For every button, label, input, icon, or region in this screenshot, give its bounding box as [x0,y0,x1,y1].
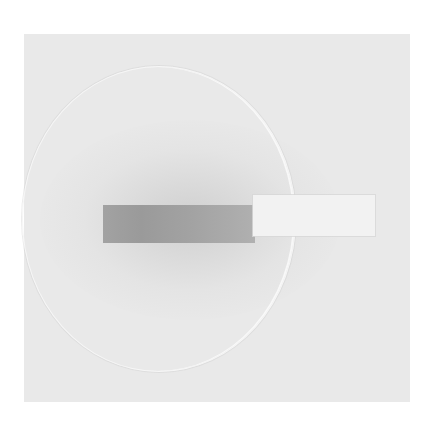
test-strip-stained-section [103,205,255,243]
test-strip-unstained-section [253,195,375,236]
